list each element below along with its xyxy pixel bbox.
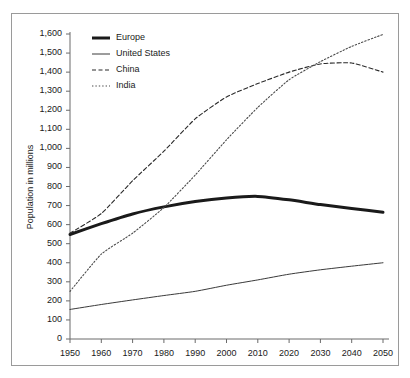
y-tick-label: 1,000 bbox=[28, 142, 62, 152]
legend-label-india[interactable]: India bbox=[116, 80, 136, 90]
plot-area bbox=[12, 14, 400, 367]
y-tick-label: 1,500 bbox=[28, 47, 62, 57]
y-tick-label: 100 bbox=[28, 314, 62, 324]
y-tick-label: 300 bbox=[28, 276, 62, 286]
y-axis-ticks bbox=[66, 34, 70, 339]
legend-label-united-states[interactable]: United States bbox=[116, 48, 170, 58]
x-axis-ticks bbox=[70, 339, 383, 343]
y-tick-label: 700 bbox=[28, 200, 62, 210]
data-series-group bbox=[70, 34, 383, 309]
y-tick-label: 1,600 bbox=[28, 28, 62, 38]
y-tick-label: 1,300 bbox=[28, 85, 62, 95]
series-line-united-states bbox=[70, 263, 383, 310]
y-tick-label: 600 bbox=[28, 219, 62, 229]
y-tick-label: 1,100 bbox=[28, 123, 62, 133]
y-tick-label: 1,200 bbox=[28, 104, 62, 114]
chart-figure: Population in millions 01002003004005006… bbox=[0, 0, 410, 378]
legend-label-china[interactable]: China bbox=[116, 64, 140, 74]
series-line-europe bbox=[70, 196, 383, 234]
y-tick-label: 500 bbox=[28, 238, 62, 248]
legend-label-europe[interactable]: Europe bbox=[116, 32, 145, 42]
y-tick-label: 800 bbox=[28, 181, 62, 191]
y-tick-label: 0 bbox=[28, 333, 62, 343]
x-tick-label: 2050 bbox=[365, 348, 401, 358]
legend-swatches bbox=[92, 38, 110, 86]
y-tick-label: 900 bbox=[28, 161, 62, 171]
y-tick-label: 400 bbox=[28, 257, 62, 267]
y-tick-label: 200 bbox=[28, 295, 62, 305]
chart-frame: Population in millions 01002003004005006… bbox=[11, 13, 399, 366]
y-tick-label: 1,400 bbox=[28, 66, 62, 76]
